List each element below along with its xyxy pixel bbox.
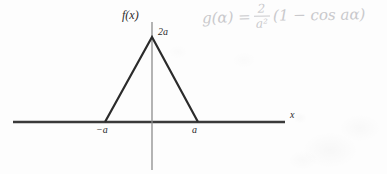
annotation-fraction-denominator: a² [254, 17, 270, 30]
annotation-lhs: g(α) = [202, 10, 251, 26]
x-axis-label: x [290, 110, 294, 120]
right-root-label: a [192, 125, 197, 135]
peak-value-label: 2a [158, 27, 168, 37]
left-root-label: −a [96, 125, 108, 135]
y-axis-label: f(x) [122, 9, 139, 21]
handwritten-formula-annotation: g(α) = 2 a² (1 − cos aα) [202, 1, 366, 33]
figure-page: f(x) 2a −a a x g(α) = 2 a² (1 − cos aα) [0, 0, 387, 174]
annotation-fraction: 2 a² [253, 2, 270, 30]
annotation-fraction-numerator: 2 [256, 2, 268, 15]
annotation-rhs: (1 − cos aα) [273, 7, 366, 23]
